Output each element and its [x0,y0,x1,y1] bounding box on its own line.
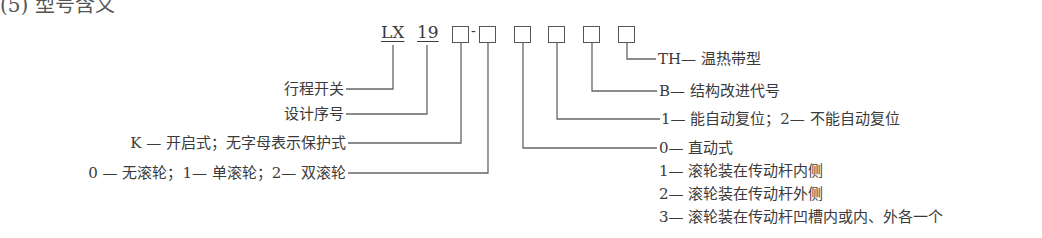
label-tropical-type: TH— 温热带型 [658,50,761,68]
label-design-number: 设计序号 [284,105,344,123]
code-box-5 [583,26,600,43]
label-auto-reset: 1— 能自动复位；2— 不能自动复位 [661,110,900,128]
label-roller-inner: 1— 滚轮装在传动杆内侧 [659,162,823,180]
label-roller-groove: 3— 滚轮装在传动杆凹槽内或内、外各一个 [659,208,943,226]
label-roller-outer: 2— 滚轮装在传动杆外侧 [659,185,823,203]
label-switch-type: 行程开关 [284,80,344,98]
label-structure-code: B— 结构改进代号 [659,82,780,100]
label-direct-action: 0— 直动式 [659,139,733,157]
model-series: 19 [417,22,439,42]
code-box-4 [548,26,565,43]
code-box-3 [514,26,531,43]
code-box-6 [618,26,635,43]
code-dash: - [471,23,476,39]
model-prefix: LX [381,22,404,42]
label-open-type: K — 开启式；无字母表示保护式 [130,134,346,152]
code-box-1 [452,26,469,43]
label-roller-count: 0 — 无滚轮；1— 单滚轮；2— 双滚轮 [88,164,346,182]
code-box-2 [479,26,496,43]
